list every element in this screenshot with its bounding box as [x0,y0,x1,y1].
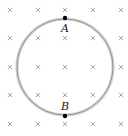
field-x-icon [119,36,123,40]
field-x-icon [63,36,67,40]
field-x-icon [91,36,95,40]
point-a-label: A [60,22,69,35]
field-x-icon [119,8,123,12]
field-x-icon [36,93,40,97]
field-x-icon [119,65,123,69]
field-x-icon [119,93,123,97]
point-a-dot [63,16,67,20]
point-b-dot [63,114,67,118]
field-x-icon [63,93,67,97]
field-x-icon [36,8,40,12]
field-x-icon [63,122,67,126]
field-x-icon [63,65,67,69]
field-x-icon [91,8,95,12]
field-x-icon [36,65,40,69]
field-x-icon [8,93,12,97]
field-x-icon [36,36,40,40]
field-x-icon [91,122,95,126]
field-x-icon [8,8,12,12]
field-x-icon [63,8,67,12]
field-x-icon [8,65,12,69]
point-b-label: B [60,100,69,113]
field-x-icon [8,122,12,126]
field-x-icon [91,93,95,97]
field-x-icon [91,65,95,69]
field-x-icon [8,36,12,40]
magnetic-loop-diagram: A B [0,0,128,136]
field-x-icon [119,122,123,126]
field-x-icon [36,122,40,126]
